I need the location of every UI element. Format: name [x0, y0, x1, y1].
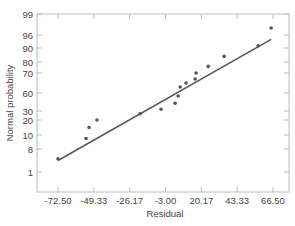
data-point [222, 55, 226, 59]
y-tick-label: 99 [22, 9, 33, 20]
y-tick-label: 10 [22, 130, 33, 141]
data-points [56, 26, 273, 160]
normal-probability-plot: 18102030607080909699 -72.50-49.33-26.17-… [0, 0, 295, 226]
data-point [84, 137, 88, 141]
y-tick-label: 30 [22, 106, 33, 117]
data-point [206, 65, 210, 69]
data-point [269, 26, 273, 30]
y-tick-label: 80 [22, 57, 33, 68]
data-point [173, 101, 177, 105]
y-tick-label: 90 [22, 43, 33, 54]
data-point [138, 112, 142, 116]
x-tick-label: 43.33 [225, 195, 249, 206]
data-point [176, 94, 180, 98]
x-tick-label: 66.50 [261, 195, 285, 206]
y-axis-title: Normal probability [4, 64, 15, 141]
data-point [87, 126, 91, 130]
x-tick-label: -26.17 [116, 195, 143, 206]
y-tick-label: 60 [22, 88, 33, 99]
data-point [95, 118, 99, 122]
data-point [193, 77, 197, 81]
x-axis-title: Residual [147, 208, 184, 219]
data-point [56, 157, 60, 161]
x-axis-ticks: -72.50-49.33-26.17-3.0020.1743.3366.50 [45, 14, 285, 206]
data-point [159, 107, 163, 111]
y-tick-label: 1 [28, 167, 33, 178]
data-point [184, 81, 188, 85]
y-tick-label: 70 [22, 68, 33, 79]
x-tick-label: -72.50 [45, 195, 72, 206]
fitted-line [58, 39, 271, 160]
plot-frame [37, 14, 289, 192]
x-tick-label: -3.00 [155, 195, 177, 206]
x-tick-label: -49.33 [80, 195, 107, 206]
y-tick-label: 96 [22, 30, 33, 41]
data-point [194, 71, 198, 75]
data-point [256, 44, 260, 48]
data-point [178, 85, 182, 89]
fit-line-segment [58, 39, 271, 160]
y-tick-label: 8 [28, 144, 33, 155]
y-axis-ticks: 18102030607080909699 [22, 9, 289, 178]
x-tick-label: 20.17 [189, 195, 213, 206]
